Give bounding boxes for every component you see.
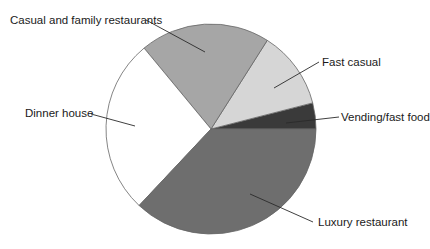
label-casual-family: Casual and family restaurants	[10, 14, 162, 27]
label-fast-casual: Fast casual	[322, 56, 381, 69]
label-dinner-house: Dinner house	[25, 107, 93, 120]
label-luxury-restaurant: Luxury restaurant	[318, 216, 408, 229]
label-vending-fast-food: Vending/fast food	[341, 111, 430, 124]
pie-slices	[106, 24, 316, 234]
